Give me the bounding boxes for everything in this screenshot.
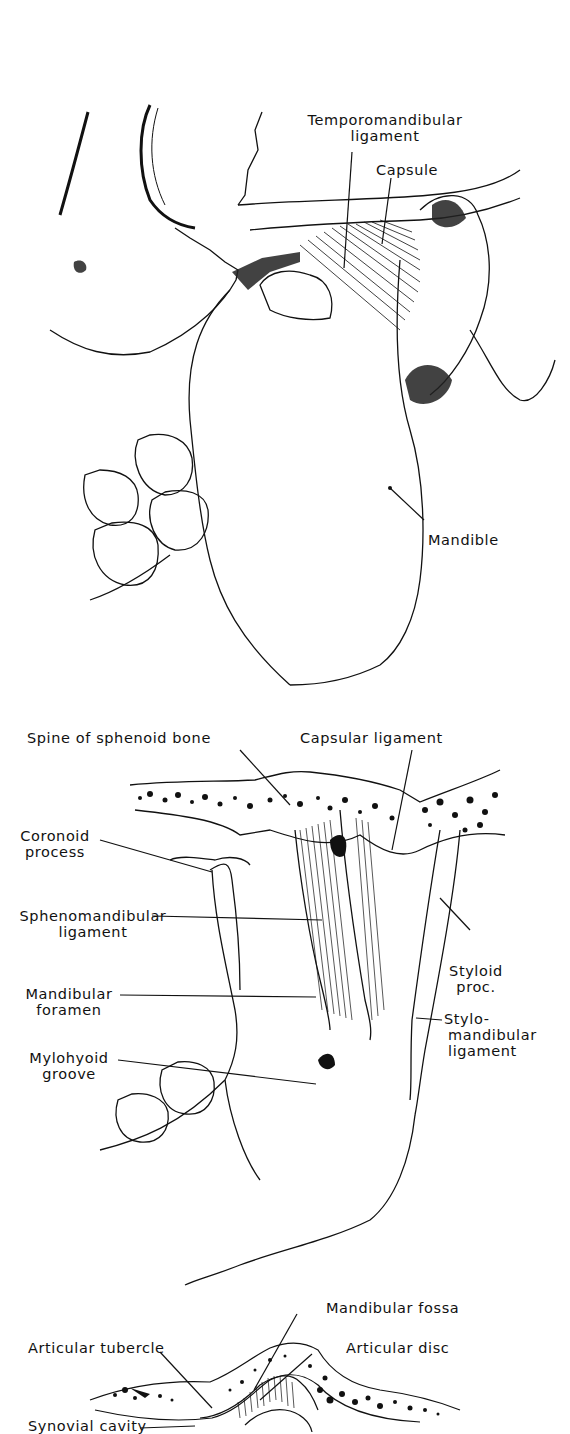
label-line: Mandibular bbox=[18, 986, 120, 1002]
label-mandibular-fossa: Mandibular fossa bbox=[326, 1300, 459, 1316]
leader-synovial-cavity bbox=[140, 1426, 195, 1428]
label-line: Temporomandibular bbox=[300, 112, 470, 128]
label-articular-disc: Articular disc bbox=[346, 1340, 449, 1356]
label-sphenomandibular-ligament: Sphenomandibular ligament bbox=[18, 908, 168, 940]
label-line: groove bbox=[26, 1066, 112, 1082]
label-capsule: Capsule bbox=[376, 162, 438, 178]
leader-mandible bbox=[390, 488, 424, 520]
figure-sagittal-section: Mandibular fossa Articular tubercle Arti… bbox=[0, 1290, 570, 1432]
label-mandibular-foramen: Mandibular foramen bbox=[18, 986, 120, 1018]
label-line: process bbox=[14, 844, 96, 860]
leader-mandibular-foramen bbox=[120, 995, 316, 997]
label-mandible: Mandible bbox=[428, 532, 499, 548]
label-line: proc. bbox=[440, 979, 512, 995]
leader-stylomandibular bbox=[416, 1018, 442, 1020]
leader-styloid bbox=[440, 898, 470, 930]
leader-spine-sphenoid bbox=[240, 750, 290, 805]
leader-coronoid bbox=[100, 840, 212, 872]
label-line: Coronoid bbox=[14, 828, 96, 844]
label-capsular-ligament: Capsular ligament bbox=[300, 730, 443, 746]
figure-medial-view: Spine of sphenoid bone Capsular ligament… bbox=[0, 720, 570, 1290]
label-coronoid-process: Coronoid process bbox=[14, 828, 96, 860]
label-styloid-proc: Styloid proc. bbox=[440, 963, 512, 995]
label-line: foramen bbox=[18, 1002, 120, 1018]
leader-mylohyoid bbox=[118, 1060, 316, 1084]
label-mylohyoid-groove: Mylohyoid groove bbox=[26, 1050, 112, 1082]
label-line: Styloid bbox=[440, 963, 512, 979]
label-line: ligament bbox=[300, 128, 470, 144]
label-spine-of-sphenoid-bone: Spine of sphenoid bone bbox=[27, 730, 211, 746]
label-synovial-cavity: Synovial cavity bbox=[28, 1418, 147, 1434]
label-line: Mylohyoid bbox=[26, 1050, 112, 1066]
label-temporomandibular-ligament: Temporomandibular ligament bbox=[300, 112, 470, 144]
label-articular-tubercle: Articular tubercle bbox=[28, 1340, 165, 1356]
label-line: ligament bbox=[444, 1043, 537, 1059]
label-line: Stylo- bbox=[444, 1011, 537, 1027]
leader-articular-tubercle bbox=[160, 1352, 212, 1408]
label-line: mandibular bbox=[444, 1027, 537, 1043]
label-line: ligament bbox=[18, 924, 168, 940]
lateral-view-illustration bbox=[0, 0, 570, 700]
label-stylomandibular-ligament: Stylo- mandibular ligament bbox=[444, 1011, 537, 1059]
figure-lateral-view: Temporomandibular ligament Capsule Mandi… bbox=[0, 0, 570, 700]
leader-capsular-ligament bbox=[392, 750, 412, 850]
leader-mandibular-fossa bbox=[254, 1314, 297, 1390]
sagittal-section-illustration bbox=[0, 1290, 570, 1432]
label-line: Sphenomandibular bbox=[18, 908, 168, 924]
